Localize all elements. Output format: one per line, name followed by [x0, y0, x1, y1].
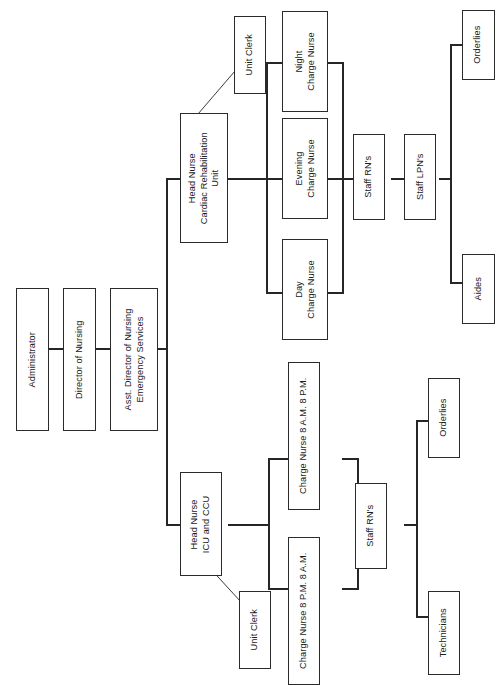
head-nurse-icu-line1: Head Nurse: [190, 499, 200, 549]
node-unit-clerk-cardiac-label: Unit Clerk: [244, 34, 256, 75]
day-charge-nurse-line2: Charge Nurse: [305, 260, 315, 318]
node-night-charge-nurse-label: Night Charge Nurse: [294, 32, 317, 90]
connector-charge-nurse-bracket-left-lower: [268, 458, 270, 590]
night-charge-nurse-line2: Charge Nurse: [305, 32, 315, 90]
node-day-charge-nurse[interactable]: Day Charge Nurse: [282, 239, 328, 340]
node-administrator[interactable]: Administrator: [16, 288, 49, 431]
head-nurse-cardiac-line3: Unit: [210, 170, 220, 187]
asst-director-line2: Emergency Services: [134, 316, 144, 402]
node-evening-charge-nurse-label: Evening Charge Nurse: [294, 139, 317, 197]
node-technicians-lower-label: Technicians: [438, 608, 450, 657]
node-evening-charge-nurse[interactable]: Evening Charge Nurse: [282, 118, 328, 219]
node-staff-rns-lower-label: Staff RN's: [365, 505, 377, 547]
head-nurse-cardiac-line1: Head Nurse: [187, 153, 197, 203]
night-charge-nurse-line1: Night: [294, 51, 304, 73]
node-night-charge-nurse[interactable]: Night Charge Nurse: [282, 11, 328, 112]
node-technicians-lower[interactable]: Technicians: [428, 591, 460, 675]
node-charge-nurse-day-shift[interactable]: Charge Nurse 8 A.M. 8 P.M.: [288, 362, 320, 510]
node-asst-director-of-nursing[interactable]: Asst. Director of Nursing Emergency Serv…: [110, 288, 158, 431]
node-charge-nurse-night-shift[interactable]: Charge Nurse 8 P.M. 8 A.M.: [288, 537, 320, 685]
node-staff-lpns-upper[interactable]: Staff LPN's: [404, 134, 436, 220]
node-orderlies-upper[interactable]: Orderlies: [462, 10, 495, 80]
connector-head-nurse-icu-to-charge-bracket: [228, 524, 270, 526]
evening-charge-nurse-line1: Evening: [294, 152, 304, 186]
connector-staff-rns-to-staff-lpns-upper: [391, 178, 405, 180]
day-charge-nurse-line1: Day: [294, 281, 304, 298]
node-orderlies-upper-label: Orderlies: [473, 26, 485, 64]
connector-bracket-to-charge-nurse-day-shift: [268, 458, 289, 460]
node-asst-director-of-nursing-label: Asst. Director of Nursing Emergency Serv…: [123, 308, 146, 410]
node-charge-nurse-day-shift-label: Charge Nurse 8 A.M. 8 P.M.: [298, 378, 310, 494]
connector-bracket-to-evening-charge-nurse: [266, 178, 283, 180]
node-head-nurse-cardiac-rehabilitation-unit[interactable]: Head Nurse Cardiac Rehabilitation Unit: [180, 113, 228, 243]
node-director-of-nursing[interactable]: Director of Nursing: [63, 288, 96, 431]
evening-charge-nurse-line2: Charge Nurse: [305, 139, 315, 197]
node-director-of-nursing-label: Director of Nursing: [74, 320, 86, 399]
connector-head-nurse-cardiac-to-charge-bracket: [228, 178, 268, 180]
node-unit-clerk-cardiac[interactable]: Unit Clerk: [234, 16, 266, 94]
node-head-nurse-icu-label: Head Nurse ICU and CCU: [190, 495, 213, 552]
node-administrator-label: Administrator: [27, 332, 39, 387]
head-nurse-cardiac-line2: Cardiac Rehabilitation: [198, 132, 208, 224]
asst-director-line1: Asst. Director of Nursing: [123, 308, 133, 410]
head-nurse-icu-line2: ICU and CCU: [201, 495, 211, 552]
node-staff-lpns-upper-label: Staff LPN's: [414, 154, 426, 201]
node-head-nurse-cardiac-label: Head Nurse Cardiac Rehabilitation Unit: [187, 132, 222, 224]
node-staff-rns-upper[interactable]: Staff RN's: [353, 134, 385, 220]
connector-branch-spine: [166, 178, 168, 526]
node-aides-upper-label: Aides: [473, 277, 485, 300]
connector-bracket-to-charge-nurse-night-shift: [268, 588, 289, 590]
node-staff-rns-upper-label: Staff RN's: [363, 156, 375, 198]
node-orderlies-lower[interactable]: Orderlies: [428, 378, 460, 458]
node-staff-rns-lower[interactable]: Staff RN's: [355, 483, 387, 569]
node-day-charge-nurse-label: Day Charge Nurse: [294, 260, 317, 318]
node-charge-nurse-night-shift-label: Charge Nurse 8 P.M. 8 A.M.: [298, 553, 310, 669]
node-unit-clerk-icu-label: Unit Clerk: [249, 609, 261, 650]
connector-split-orderlies-technicians-lower: [416, 420, 418, 618]
connector-split-orderlies-aides-upper: [450, 44, 452, 284]
connector-bracket-to-day-charge-nurse: [266, 292, 283, 294]
node-aides-upper[interactable]: Aides: [462, 254, 495, 324]
node-unit-clerk-icu[interactable]: Unit Clerk: [239, 591, 271, 669]
org-chart-canvas: Administrator Director of Nursing Asst. …: [0, 0, 499, 685]
node-orderlies-lower-label: Orderlies: [438, 399, 450, 437]
node-head-nurse-icu-and-ccu[interactable]: Head Nurse ICU and CCU: [180, 472, 222, 576]
connector-bracket-to-night-charge-nurse: [266, 62, 283, 64]
